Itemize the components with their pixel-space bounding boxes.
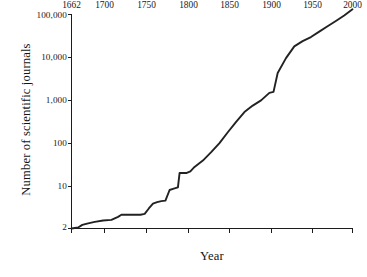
y-tick-label-10000: 10,000	[41, 52, 67, 62]
x-tick-label-1750: 1750	[128, 0, 165, 11]
y-axis-title: Number of scientific journals	[19, 20, 34, 220]
data-series-group	[72, 9, 353, 228]
axes-group	[72, 14, 354, 229]
x-tick-label-1850: 1850	[211, 0, 248, 11]
y-tick-label-100: 100	[53, 138, 67, 148]
x-axis-title: Year	[71, 249, 353, 264]
x-tick-label-1950: 1950	[294, 0, 331, 11]
y-tick-label-2: 2	[62, 222, 67, 232]
x-tick-label-1662: 1662	[53, 0, 90, 11]
x-tick-label-1700: 1700	[86, 0, 123, 11]
x-axis-ticks	[72, 229, 353, 233]
x-tick-label-2000: 2000	[334, 0, 367, 11]
x-tick-label-1900: 1900	[253, 0, 290, 11]
series-line-journals	[72, 9, 353, 228]
y-tick-label-1000: 1,000	[46, 95, 67, 105]
y-axis-ticks	[68, 15, 72, 229]
y-tick-label-10: 10	[58, 181, 67, 191]
chart-figure: 100,000 10,000 1,000 100 10 2 1662 1700 …	[0, 0, 367, 277]
x-tick-label-1800: 1800	[170, 0, 207, 11]
y-tick-label-group: 100,000 10,000 1,000 100 10 2	[0, 0, 67, 277]
y-tick-label-100000: 100,000	[36, 10, 67, 20]
